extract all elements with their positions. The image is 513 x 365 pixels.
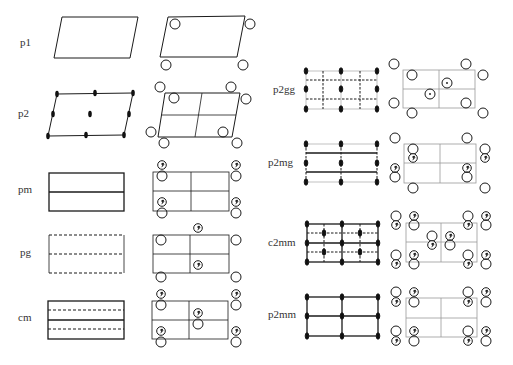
group-p1: p1 bbox=[20, 16, 255, 70]
group-label-p2gg: p2gg bbox=[273, 83, 296, 95]
p2gg-lattice-cell bbox=[304, 68, 379, 112]
p2-lattice-cell bbox=[46, 90, 135, 139]
group-p2mm: p2mm bbox=[268, 287, 491, 346]
c2mm-motif-pattern bbox=[391, 211, 491, 269]
group-pm: pm bbox=[18, 161, 241, 218]
group-label-pg: pg bbox=[20, 246, 32, 258]
group-label-c2mm: c2mm bbox=[268, 236, 296, 248]
group-label-p1: p1 bbox=[20, 36, 31, 48]
cm-motif-pattern bbox=[152, 290, 241, 347]
p1-motif-pattern bbox=[160, 16, 255, 70]
p2gg-motif-pattern bbox=[389, 59, 488, 118]
pg-motif-pattern bbox=[153, 224, 241, 282]
group-p2: p2 bbox=[18, 82, 251, 148]
group-label-pm: pm bbox=[18, 183, 33, 195]
group-cm: cm bbox=[18, 290, 241, 347]
cm-lattice-cell bbox=[48, 301, 124, 339]
p2-motif-pattern bbox=[146, 82, 251, 148]
wallpaper-groups-figure: p1 p2 pm bbox=[0, 0, 513, 365]
c2mm-lattice-cell bbox=[305, 221, 380, 265]
group-label-p2mm: p2mm bbox=[268, 308, 297, 320]
group-label-cm: cm bbox=[18, 311, 32, 323]
group-p2gg: p2gg bbox=[273, 59, 488, 118]
p2mm-motif-pattern bbox=[391, 287, 491, 346]
group-pg: pg bbox=[20, 224, 241, 282]
p2mg-lattice-cell bbox=[304, 141, 379, 185]
group-c2mm: c2mm bbox=[268, 211, 491, 269]
pm-motif-pattern bbox=[153, 161, 241, 218]
pg-lattice-cell bbox=[49, 235, 124, 273]
group-p2mg: p2mg bbox=[268, 133, 490, 193]
group-label-p2: p2 bbox=[18, 107, 29, 119]
p1-lattice-cell bbox=[54, 17, 138, 58]
p2mm-lattice-cell bbox=[305, 294, 380, 339]
p2mg-motif-pattern bbox=[390, 133, 490, 193]
pm-lattice-cell bbox=[49, 173, 124, 211]
group-label-p2mg: p2mg bbox=[268, 156, 294, 168]
